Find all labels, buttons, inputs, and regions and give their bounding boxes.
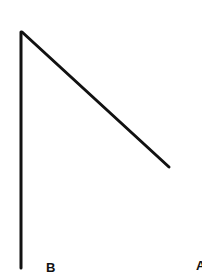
diagonal-line bbox=[22, 32, 169, 167]
diagram-canvas bbox=[0, 0, 202, 272]
point-label-a: A bbox=[196, 259, 202, 272]
point-label-b: B bbox=[46, 261, 55, 272]
